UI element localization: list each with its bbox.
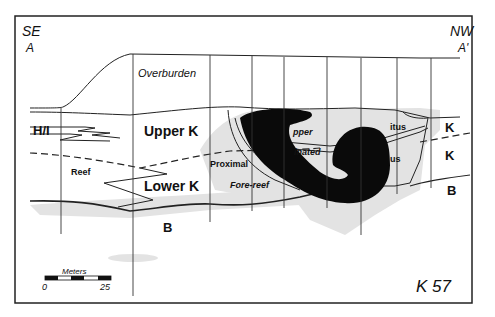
point-a-label: A [26, 42, 34, 54]
us-partial-label: us [390, 155, 401, 164]
laminated-partial-label: inated [294, 148, 321, 157]
point-a-prime-label: A' [458, 42, 468, 54]
lower-k-label: Lower K [144, 179, 199, 193]
right-upper-k-label: K [445, 121, 454, 134]
b-right-label: B [447, 184, 456, 197]
scale-bar-title: Meters [62, 268, 86, 276]
direction-nw-label: NW [450, 24, 473, 38]
right-lower-k-label: K [445, 149, 454, 162]
upper-k-label: Upper K [144, 124, 198, 138]
detritus-partial-label: itus [390, 123, 406, 132]
b-left-label: B [163, 221, 172, 234]
upper-partial-label: pper [293, 128, 313, 137]
cross-section-diagram: SE A NW A' Overburden H/I Upper K Reef L… [0, 0, 495, 317]
overburden-label: Overburden [138, 68, 196, 79]
scale-bar [45, 276, 111, 280]
overburden-top-line [30, 54, 460, 108]
scale-bar-min: 0 [42, 283, 47, 292]
reef-label: Reef [71, 168, 91, 177]
proximal-label: Proximal [210, 160, 248, 169]
hi-label: H/I [33, 124, 50, 137]
direction-se-label: SE [22, 24, 41, 38]
scale-bar-max: 25 [100, 283, 110, 292]
fore-reef-label: Fore-reef [230, 181, 269, 190]
figure-id-label: K 57 [416, 278, 451, 295]
